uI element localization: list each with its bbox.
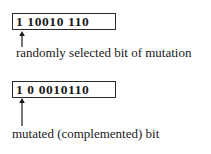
original-chromosome-bitstring: 1 10010 110 xyxy=(12,13,116,30)
arrow-up-icon xyxy=(17,98,27,126)
selected-bit-caption: randomly selected bit of mutation xyxy=(16,46,191,60)
mutated-bit-caption: mutated (complemented) bit xyxy=(12,127,159,141)
mutated-chromosome-bitstring: 1 0 0010110 xyxy=(12,81,116,98)
